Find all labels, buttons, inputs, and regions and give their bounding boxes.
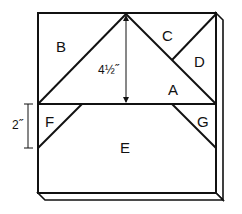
piece-label-e: E (120, 140, 130, 155)
block-depth-bottom (38, 193, 223, 200)
piece-label-f: F (45, 114, 54, 129)
piece-label-g: G (197, 114, 209, 129)
height-dimension-label: 4½˝ (98, 64, 119, 76)
quilt-block-diagram (0, 0, 242, 214)
piece-label-c: C (162, 28, 173, 43)
piece-label-a: A (168, 82, 178, 97)
block-depth-right (216, 13, 223, 200)
piece-label-d: D (194, 54, 205, 69)
side-dimension-label: 2˝ (12, 119, 23, 131)
piece-label-b: B (56, 39, 66, 54)
